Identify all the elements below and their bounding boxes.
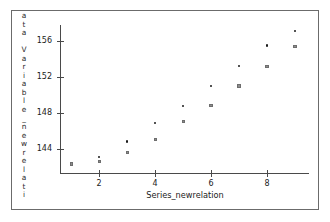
x-tick-mark (155, 170, 156, 177)
x-tick-label: 6 (201, 179, 221, 188)
x-tick-label: 2 (89, 179, 109, 188)
data-point (237, 84, 240, 87)
data-point (98, 156, 100, 158)
data-point (154, 122, 156, 124)
data-point (293, 45, 296, 48)
data-point (209, 104, 212, 107)
y-tick-mark (57, 41, 64, 42)
x-tick-mark (99, 170, 100, 177)
y-tick-label: 152 (26, 72, 52, 81)
data-point (210, 85, 212, 87)
x-axis-label: Series_newrelation (60, 190, 310, 200)
scatter-plot: a t a V a r i a b l e _ n e w r e l a t … (0, 0, 330, 222)
data-point (70, 162, 73, 165)
y-tick-label: 144 (26, 144, 52, 153)
data-point (266, 44, 268, 46)
y-tick-mark (57, 113, 64, 114)
data-point (154, 138, 157, 141)
data-point (238, 65, 240, 67)
data-point (98, 160, 101, 163)
y-tick-label: 156 (26, 36, 52, 45)
y-axis-line (60, 25, 61, 173)
data-point (294, 30, 296, 32)
data-point (182, 105, 184, 107)
y-tick-mark (57, 149, 64, 150)
x-tick-label: 8 (257, 179, 277, 188)
data-point (182, 120, 185, 123)
x-axis-line (60, 173, 309, 174)
data-point (126, 151, 129, 154)
y-tick-label: 148 (26, 108, 52, 117)
data-point (126, 140, 128, 142)
x-tick-label: 4 (145, 179, 165, 188)
y-tick-mark (57, 77, 64, 78)
x-tick-mark (267, 170, 268, 177)
data-point (265, 65, 268, 68)
x-tick-mark (211, 170, 212, 177)
